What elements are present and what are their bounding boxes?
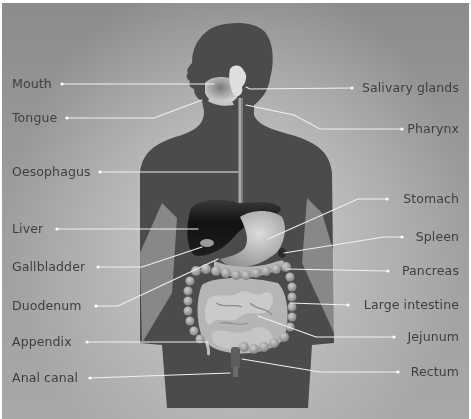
label-spleen: Spleen xyxy=(416,230,459,244)
label-large-intestine: Large intestine xyxy=(364,298,459,312)
rectum-organ xyxy=(231,347,240,369)
anal-canal-organ xyxy=(233,367,238,377)
digestive-system-illustration xyxy=(2,3,469,419)
label-jejunum: Jejunum xyxy=(408,330,460,344)
gallbladder-organ xyxy=(200,239,214,247)
label-salivary-glands: Salivary glands xyxy=(362,81,459,95)
label-liver: Liver xyxy=(12,222,43,236)
label-anal-canal: Anal canal xyxy=(12,371,78,385)
label-tongue: Tongue xyxy=(12,111,57,125)
label-oesophagus: Oesophagus xyxy=(12,165,91,179)
label-appendix: Appendix xyxy=(12,335,72,349)
diagram-canvas: Mouth Tongue Oesophagus Liver Gallbladde… xyxy=(2,3,469,419)
label-pharynx: Pharynx xyxy=(407,122,459,136)
label-duodenum: Duodenum xyxy=(12,299,82,313)
label-rectum: Rectum xyxy=(411,365,459,379)
label-mouth: Mouth xyxy=(12,77,52,91)
label-pancreas: Pancreas xyxy=(402,264,459,278)
label-gallbladder: Gallbladder xyxy=(12,260,85,274)
label-stomach: Stomach xyxy=(403,192,459,206)
